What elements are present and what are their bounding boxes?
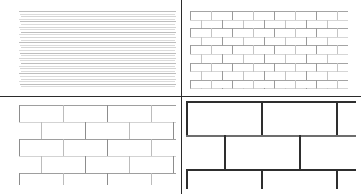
head-joint: [295, 45, 296, 54]
head-joint: [306, 88, 307, 89]
head-joint: [327, 71, 328, 80]
head-joint: [285, 71, 286, 80]
head-joint: [316, 28, 317, 37]
head-joint: [264, 71, 265, 80]
head-joint: [316, 45, 317, 54]
bed-joint: [190, 63, 348, 64]
head-joint: [274, 28, 275, 37]
bed-joint: [190, 88, 348, 89]
bed-joint: [20, 29, 175, 30]
horizontal-divider: [0, 96, 361, 97]
bed-joint: [190, 45, 348, 46]
head-joint: [261, 169, 263, 189]
bed-joint: [20, 14, 175, 15]
head-joint: [243, 54, 244, 63]
head-joint: [253, 28, 254, 37]
medium-scale-panel: [0, 97, 181, 194]
bed-joint: [186, 101, 356, 103]
bed-joint: [20, 68, 176, 69]
bed-joint: [19, 34, 175, 35]
bed-joint: [20, 21, 176, 22]
bed-joint: [190, 54, 348, 55]
bed-joint: [19, 105, 176, 106]
head-joint: [211, 45, 212, 54]
head-joint: [327, 54, 328, 63]
head-joint: [253, 45, 254, 54]
bed-joint: [21, 79, 176, 80]
head-joint: [41, 156, 42, 173]
bed-joint: [19, 11, 176, 12]
bed-joint: [19, 19, 175, 20]
bed-joint: [21, 63, 176, 64]
head-joint: [129, 156, 130, 173]
head-joint: [107, 139, 108, 156]
bed-joint: [190, 37, 348, 38]
bed-joint: [190, 28, 348, 29]
head-joint: [201, 88, 202, 89]
brick-scale-figure: [0, 0, 361, 194]
head-joint: [19, 105, 20, 122]
bed-joint: [186, 169, 356, 171]
head-joint: [129, 122, 130, 139]
bed-joint: [19, 58, 176, 59]
fine-scale-panel: [182, 0, 361, 96]
head-joint: [295, 28, 296, 37]
head-joint: [224, 135, 226, 169]
head-joint: [19, 173, 20, 185]
bed-joint: [20, 76, 175, 77]
head-joint: [190, 28, 191, 37]
head-joint: [107, 105, 108, 122]
head-joint: [107, 173, 108, 185]
bed-joint: [190, 71, 348, 72]
coarse-scale-panel: [182, 97, 361, 194]
coarse-scale-brick-field: [186, 101, 356, 189]
head-joint: [274, 11, 275, 20]
head-joint: [201, 54, 202, 63]
finest-scale-panel: [0, 0, 181, 96]
bed-joint: [21, 71, 175, 72]
bed-joint: [21, 24, 175, 25]
bed-joint: [19, 73, 176, 74]
bed-joint: [19, 173, 176, 174]
bed-joint: [186, 135, 356, 137]
bed-joint: [19, 81, 175, 82]
bed-joint: [20, 37, 176, 38]
head-joint: [222, 88, 223, 89]
bed-joint: [19, 156, 176, 157]
head-joint: [327, 88, 328, 89]
head-joint: [336, 169, 338, 189]
bed-joint: [21, 32, 176, 33]
medium-scale-brick-field: [19, 105, 176, 185]
head-joint: [151, 173, 152, 185]
head-joint: [222, 54, 223, 63]
head-joint: [232, 11, 233, 20]
bed-joint: [21, 16, 176, 17]
head-joint: [211, 28, 212, 37]
bed-joint: [20, 60, 175, 61]
bed-joint: [19, 66, 175, 67]
head-joint: [151, 105, 152, 122]
bed-joint: [190, 20, 348, 21]
head-joint: [274, 45, 275, 54]
finest-scale-brick-field: [19, 11, 176, 89]
bed-joint: [19, 27, 176, 28]
bed-joint: [21, 40, 175, 41]
head-joint: [253, 11, 254, 20]
head-joint: [222, 71, 223, 80]
head-joint: [63, 173, 64, 185]
head-joint: [151, 139, 152, 156]
head-joint: [264, 88, 265, 89]
head-joint: [186, 101, 188, 135]
head-joint: [63, 105, 64, 122]
head-joint: [190, 45, 191, 54]
head-joint: [63, 139, 64, 156]
head-joint: [173, 122, 174, 139]
bed-joint: [19, 122, 176, 123]
head-joint: [232, 45, 233, 54]
bed-joint: [19, 139, 176, 140]
head-joint: [285, 54, 286, 63]
bed-joint: [19, 42, 176, 43]
bed-joint: [190, 80, 348, 81]
vertical-divider: [181, 0, 182, 194]
head-joint: [316, 11, 317, 20]
